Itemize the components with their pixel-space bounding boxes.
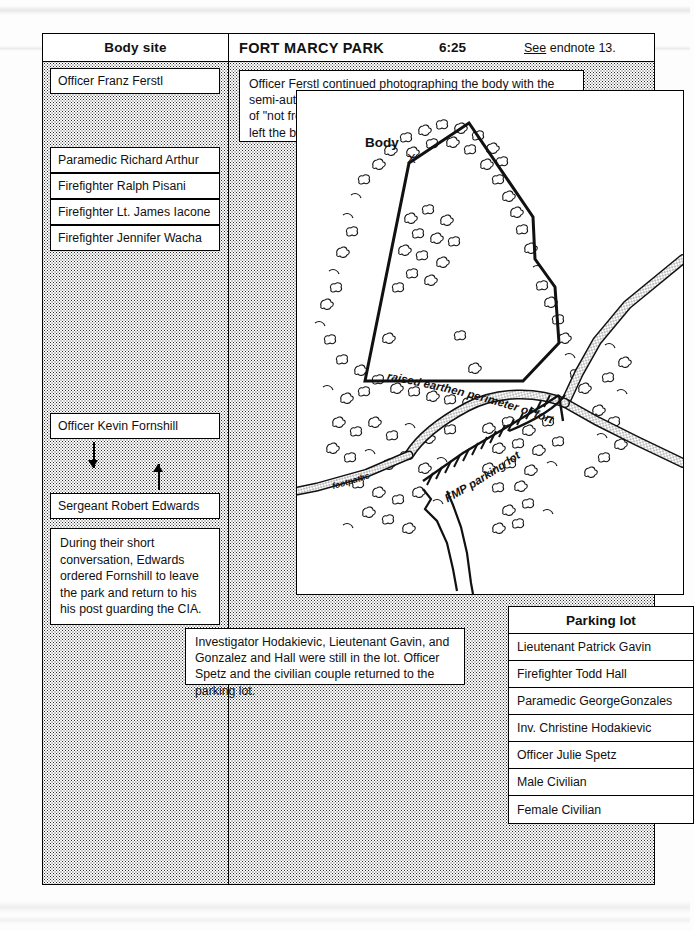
body-site-header-label: Body site bbox=[104, 40, 167, 55]
fort-perimeter-polygon bbox=[365, 123, 559, 381]
list-item-ferstl[interactable]: Officer Franz Ferstl bbox=[50, 68, 220, 94]
list-item-fornshill[interactable]: Officer Kevin Fornshill bbox=[50, 413, 220, 439]
map-label-body: Body bbox=[365, 135, 399, 150]
table-row[interactable]: Firefighter Todd Hall bbox=[509, 661, 693, 688]
timestamp: 6:25 bbox=[439, 40, 466, 55]
person-name: Officer Kevin Fornshill bbox=[58, 419, 178, 433]
table-header-label: Parking lot bbox=[566, 613, 636, 628]
arrow-up-icon bbox=[153, 464, 164, 490]
page-title: FORT MARCY PARK bbox=[239, 40, 384, 56]
arrow-head bbox=[153, 464, 163, 472]
person-name: Officer Franz Ferstl bbox=[58, 74, 163, 88]
arrow-head bbox=[88, 460, 98, 468]
body-site-column-header: Body site bbox=[43, 34, 229, 62]
table-row[interactable]: Lieutenant Patrick Gavin bbox=[509, 634, 693, 661]
note-text: Investigator Hodakievic, Lieutenant Gavi… bbox=[195, 635, 449, 698]
scan-artifact-top bbox=[0, 6, 690, 15]
list-item-wacha[interactable]: Firefighter Jennifer Wacha bbox=[50, 225, 220, 251]
scan-artifact-bottom bbox=[0, 901, 690, 913]
person-name: Inv. Christine Hodakievic bbox=[517, 721, 651, 735]
page-frame: Body site FORT MARCY PARK 6:25 See endno… bbox=[42, 33, 655, 885]
header-row: Body site FORT MARCY PARK 6:25 See endno… bbox=[43, 34, 654, 62]
person-name: Firefighter Jennifer Wacha bbox=[58, 231, 202, 245]
person-name: Male Civilian bbox=[517, 775, 587, 789]
endnote-reference: See endnote 13. bbox=[524, 41, 616, 55]
body-marker-x-icon: X bbox=[407, 151, 416, 166]
body-site-column: Officer Franz Ferstl Paramedic Richard A… bbox=[43, 62, 229, 884]
fort-marcy-park-map[interactable]: Body X raised earthen perimeter of fort … bbox=[296, 90, 684, 595]
person-name: Female Civilian bbox=[517, 803, 601, 817]
list-item-pisani[interactable]: Firefighter Ralph Pisani bbox=[50, 173, 220, 199]
table-row[interactable]: Female Civilian bbox=[509, 796, 693, 823]
person-name: Firefighter Todd Hall bbox=[517, 667, 627, 681]
person-name: Sergeant Robert Edwards bbox=[58, 499, 200, 513]
right-panel: Officer Ferstl continued photographing t… bbox=[229, 62, 654, 884]
list-item-iacone[interactable]: Firefighter Lt. James Iacone bbox=[50, 199, 220, 225]
edwards-fornshill-note: During their short conversation, Edwards… bbox=[50, 528, 220, 625]
location-header: FORT MARCY PARK 6:25 See endnote 13. bbox=[229, 34, 654, 62]
map-drawing: Body X raised earthen perimeter of fort … bbox=[297, 91, 683, 594]
person-name: Officer Julie Spetz bbox=[517, 748, 617, 762]
endnote-see-link[interactable]: See bbox=[524, 41, 546, 55]
endnote-text: endnote 13. bbox=[546, 41, 616, 55]
scan-artifact-bottom-2 bbox=[0, 916, 690, 924]
list-item-arthur[interactable]: Paramedic Richard Arthur bbox=[50, 147, 220, 173]
note-text: During their short conversation, Edwards… bbox=[60, 536, 202, 616]
person-name: Firefighter Ralph Pisani bbox=[58, 179, 186, 193]
person-name: Paramedic GeorgeGonzales bbox=[517, 694, 672, 708]
person-name: Paramedic Richard Arthur bbox=[58, 153, 199, 167]
table-row[interactable]: Male Civilian bbox=[509, 769, 693, 796]
person-name: Firefighter Lt. James Iacone bbox=[58, 205, 210, 219]
person-name: Lieutenant Patrick Gavin bbox=[517, 640, 651, 654]
table-row[interactable]: Officer Julie Spetz bbox=[509, 742, 693, 769]
table-row[interactable]: Inv. Christine Hodakievic bbox=[509, 715, 693, 742]
list-item-edwards[interactable]: Sergeant Robert Edwards bbox=[50, 493, 220, 519]
table-row[interactable]: Paramedic GeorgeGonzales bbox=[509, 688, 693, 715]
parking-lot-table: Parking lot Lieutenant Patrick Gavin Fir… bbox=[508, 606, 694, 824]
parking-lot-note-callout: Investigator Hodakievic, Lieutenant Gavi… bbox=[185, 628, 465, 685]
parking-lot-table-header: Parking lot bbox=[509, 607, 693, 634]
arrow-down-icon bbox=[88, 442, 99, 468]
